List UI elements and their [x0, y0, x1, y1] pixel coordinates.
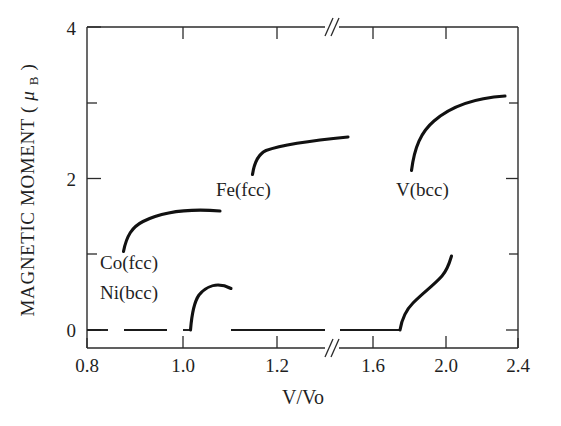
axis-break-marks — [325, 18, 339, 357]
y-axis-unit-subscript: B — [26, 76, 41, 85]
y-axis-unit-paren-open: ( — [17, 106, 39, 113]
curve-v-bcc-upper — [412, 96, 506, 171]
x-tick-label-3: 1.6 — [361, 355, 385, 376]
curve-label-ni-bcc: Ni(bcc) — [100, 282, 158, 304]
curve-v-bcc-lower — [400, 256, 452, 330]
y-axis-title-group: MAGNETIC MOMENT ( μ B ) — [17, 64, 42, 317]
y-tick-label-1: 2 — [67, 169, 77, 190]
y-tick-label-0: 0 — [67, 320, 77, 341]
y-tick-label-2: 4 — [67, 18, 77, 39]
x-tick-label-0: 0.8 — [75, 355, 99, 376]
x-tick-label-2: 1.2 — [265, 355, 289, 376]
x-tick-label-4: 2.0 — [434, 355, 458, 376]
y-axis-unit-mu: μ — [17, 91, 38, 102]
y-axis-title: MAGNETIC MOMENT — [17, 118, 38, 316]
chart-svg: 0.8 1.0 1.2 1.6 2.0 2.4 0 2 4 V/Vo MAGNE… — [0, 0, 561, 426]
curve-label-co-fcc: Co(fcc) — [100, 252, 158, 274]
data-curves — [124, 96, 506, 330]
curve-label-v-bcc: V(bcc) — [396, 179, 449, 201]
y-tick-labels: 0 2 4 — [67, 18, 77, 341]
x-tick-label-1: 1.0 — [171, 355, 195, 376]
x-axis-title: V/Vo — [282, 386, 324, 408]
x-tick-labels: 0.8 1.0 1.2 1.6 2.0 2.4 — [75, 355, 530, 376]
curve-co-fcc — [124, 210, 221, 251]
curve-ni-bcc — [191, 285, 232, 330]
magnetic-moment-chart-figure: 0.8 1.0 1.2 1.6 2.0 2.4 0 2 4 V/Vo MAGNE… — [0, 0, 561, 426]
curve-label-fe-fcc: Fe(fcc) — [216, 179, 271, 201]
y-axis-unit-paren-close: ) — [17, 64, 39, 71]
svg-text:MAGNETIC MOMENT: MAGNETIC MOMENT ( μ B ) — [17, 64, 42, 317]
curve-labels: Co(fcc) Ni(bcc) Fe(fcc) V(bcc) — [100, 179, 449, 304]
x-tick-label-5: 2.4 — [506, 355, 530, 376]
curve-fe-fcc — [253, 137, 349, 175]
